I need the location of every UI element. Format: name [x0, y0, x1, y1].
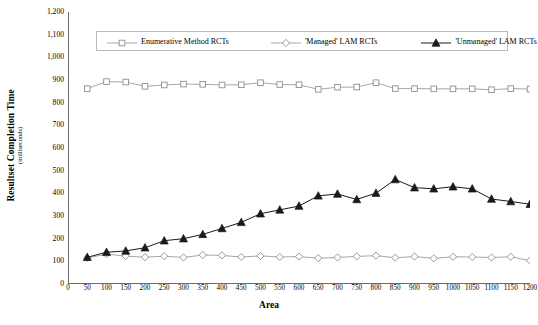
x-tick-label: 1150 [504, 284, 518, 292]
x-tick-label: 650 [313, 284, 324, 292]
data-point-marker [104, 79, 110, 85]
data-point-marker [276, 253, 283, 260]
data-point-marker [84, 86, 90, 92]
legend-label: 'Unmanaged' LAM RCTs [455, 37, 536, 46]
data-point-marker [181, 81, 187, 87]
chart-figure: Resultset Completion Time (milliseconds)… [0, 0, 538, 325]
data-point-marker [353, 253, 360, 260]
legend-item-0[interactable]: Enumerative Method RCTs [107, 32, 229, 50]
y-tick-label: 600 [30, 144, 64, 152]
data-point-marker [449, 253, 456, 260]
data-point-marker [488, 195, 496, 202]
x-axis-tick-labels: 0501001502002503003504004505005506006507… [0, 284, 538, 296]
x-tick-label: 950 [428, 284, 439, 292]
data-point-marker [411, 183, 419, 190]
data-point-marker [238, 253, 245, 260]
x-tick-label: 750 [351, 284, 362, 292]
x-tick-label: 800 [371, 284, 382, 292]
y-tick-label: 800 [30, 99, 64, 107]
chart-legend: Enumerative Method RCTs'Managed' LAM RCT… [96, 31, 508, 51]
data-point-marker [238, 82, 244, 88]
data-series-layer [68, 12, 530, 284]
x-tick-label: 1200 [523, 284, 537, 292]
x-tick-label: 550 [274, 284, 285, 292]
data-point-marker [141, 244, 149, 251]
data-point-marker [161, 82, 167, 88]
data-point-marker [527, 86, 530, 92]
data-point-marker [391, 175, 399, 182]
x-tick-label: 600 [294, 284, 305, 292]
x-tick-label: 700 [332, 284, 343, 292]
data-point-marker [354, 84, 360, 90]
y-axis-title-units: (milliseconds) [17, 89, 24, 201]
data-point-marker [431, 86, 437, 92]
data-point-marker [430, 255, 437, 262]
data-point-marker [142, 84, 148, 90]
data-point-marker [392, 86, 398, 92]
legend-label: 'Managed' LAM RCTs [305, 37, 378, 46]
data-point-marker [372, 252, 379, 259]
y-tick-label: 100 [30, 257, 64, 265]
x-tick-label: 200 [140, 284, 151, 292]
data-point-marker [488, 254, 495, 261]
x-axis-title: Area [0, 300, 538, 310]
data-point-marker [237, 218, 245, 225]
legend-marker-icon [107, 35, 137, 47]
data-point-marker [412, 86, 418, 92]
data-point-marker [219, 82, 225, 88]
series-1 [84, 250, 530, 264]
data-point-marker [373, 80, 379, 86]
data-point-marker [449, 183, 457, 190]
x-tick-label: 100 [101, 284, 112, 292]
x-tick-label: 500 [255, 284, 266, 292]
legend-marker-icon [271, 35, 301, 47]
x-tick-label: 400 [217, 284, 228, 292]
data-point-marker [315, 86, 321, 92]
x-tick-label: 1000 [446, 284, 460, 292]
data-point-marker [411, 253, 418, 260]
x-tick-label: 0 [66, 284, 70, 292]
data-point-marker [123, 79, 129, 85]
y-tick-label: 700 [30, 121, 64, 129]
y-tick-label: 200 [30, 235, 64, 243]
data-point-marker [334, 254, 341, 261]
y-tick-label: 1,100 [30, 31, 64, 39]
data-point-marker [315, 255, 322, 262]
x-tick-label: 900 [409, 284, 420, 292]
data-point-marker [295, 253, 302, 260]
data-point-marker [508, 86, 514, 92]
y-tick-label: 400 [30, 189, 64, 197]
data-point-marker [334, 190, 342, 197]
data-point-marker [296, 82, 302, 88]
data-point-marker [489, 87, 495, 93]
data-point-marker [161, 253, 168, 260]
series-0 [84, 79, 530, 93]
legend-item-1[interactable]: 'Managed' LAM RCTs [271, 32, 378, 50]
data-point-marker [200, 82, 206, 88]
plot-area [68, 12, 530, 284]
x-tick-label: 150 [120, 284, 131, 292]
legend-label: Enumerative Method RCTs [141, 37, 229, 46]
data-point-marker [218, 252, 225, 259]
x-tick-label: 300 [178, 284, 189, 292]
x-tick-label: 350 [197, 284, 208, 292]
y-tick-label: 1,000 [30, 53, 64, 61]
series-2 [83, 175, 530, 260]
legend-item-2[interactable]: 'Unmanaged' LAM RCTs [421, 32, 536, 50]
x-tick-label: 1050 [465, 284, 479, 292]
y-axis-title: Resultset Completion Time (milliseconds) [0, 0, 30, 290]
data-point-marker [469, 86, 475, 92]
x-tick-label: 450 [236, 284, 247, 292]
y-tick-label: 300 [30, 212, 64, 220]
data-point-marker [180, 254, 187, 261]
x-tick-label: 250 [159, 284, 170, 292]
legend-marker-icon [421, 35, 451, 47]
y-tick-label: 900 [30, 76, 64, 84]
data-point-marker [372, 189, 380, 196]
y-tick-label: 1,200 [30, 8, 64, 16]
data-point-marker [450, 86, 456, 92]
y-tick-label: 500 [30, 167, 64, 175]
data-point-marker [258, 80, 264, 86]
data-point-marker [199, 251, 206, 258]
data-point-marker [507, 253, 514, 260]
